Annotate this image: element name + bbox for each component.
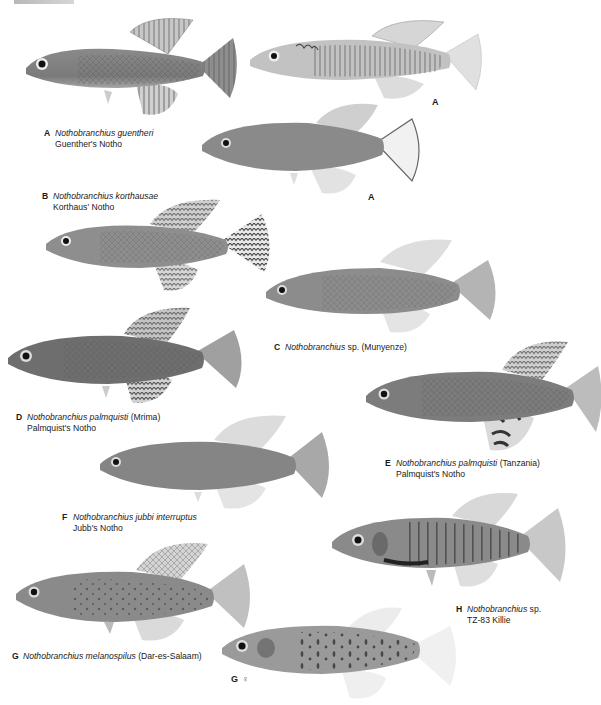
scientific-name: Nothobranchius jubbi interruptus bbox=[73, 512, 197, 522]
caption-f: FNothobranchius jubbi interruptus Jubb's… bbox=[62, 512, 197, 534]
fish-h-image bbox=[328, 486, 568, 590]
caption-h: HNothobranchius sp. TZ-83 Killie bbox=[456, 604, 541, 626]
female-symbol: ♀ bbox=[242, 674, 249, 684]
field-guide-page: A A ANothobranchius guentheri Guenther's… bbox=[0, 0, 601, 705]
scientific-name: Nothobranchius melanospilus bbox=[23, 651, 136, 661]
fish-b-image bbox=[40, 198, 272, 298]
caption-g: GNothobranchius melanospilus (Dar-es-Sal… bbox=[12, 651, 202, 662]
fish-a-female-image bbox=[244, 14, 486, 102]
caption-a: ANothobranchius guentheri Guenther's Not… bbox=[44, 128, 153, 150]
fish-g-female-image bbox=[218, 602, 458, 705]
fish-f-image bbox=[96, 410, 332, 514]
common-name: Jubb's Notho bbox=[62, 523, 197, 534]
qualifier: (Tanzania) bbox=[497, 458, 540, 468]
qualifier: (Dar-es-Salaam) bbox=[136, 651, 202, 661]
fish-label-a-female-1: A bbox=[432, 97, 439, 107]
common-name: Palmquist's Notho bbox=[385, 469, 540, 480]
fish-d-image bbox=[4, 302, 244, 408]
fish-a-female-2-image bbox=[198, 95, 422, 200]
fish-c-image bbox=[262, 234, 500, 338]
scientific-name: Nothobranchius guentheri bbox=[55, 128, 153, 138]
caption-e: ENothobranchius palmquisti (Tanzania) Pa… bbox=[385, 458, 540, 480]
scientific-name: Nothobranchius bbox=[467, 604, 527, 614]
cut-off-header-text bbox=[14, 0, 74, 4]
scientific-name: Nothobranchius bbox=[285, 342, 345, 352]
qualifier: sp. bbox=[527, 604, 541, 614]
fish-g-male-image bbox=[12, 536, 252, 646]
common-name: TZ-83 Killie bbox=[456, 615, 541, 626]
fish-label-a-female-2: A bbox=[368, 192, 375, 202]
fish-e-image bbox=[362, 336, 601, 456]
scientific-name: Nothobranchius palmquisti bbox=[396, 458, 497, 468]
fish-label-g-female: G♀ bbox=[231, 674, 249, 684]
common-name: Guenther's Notho bbox=[44, 139, 153, 150]
